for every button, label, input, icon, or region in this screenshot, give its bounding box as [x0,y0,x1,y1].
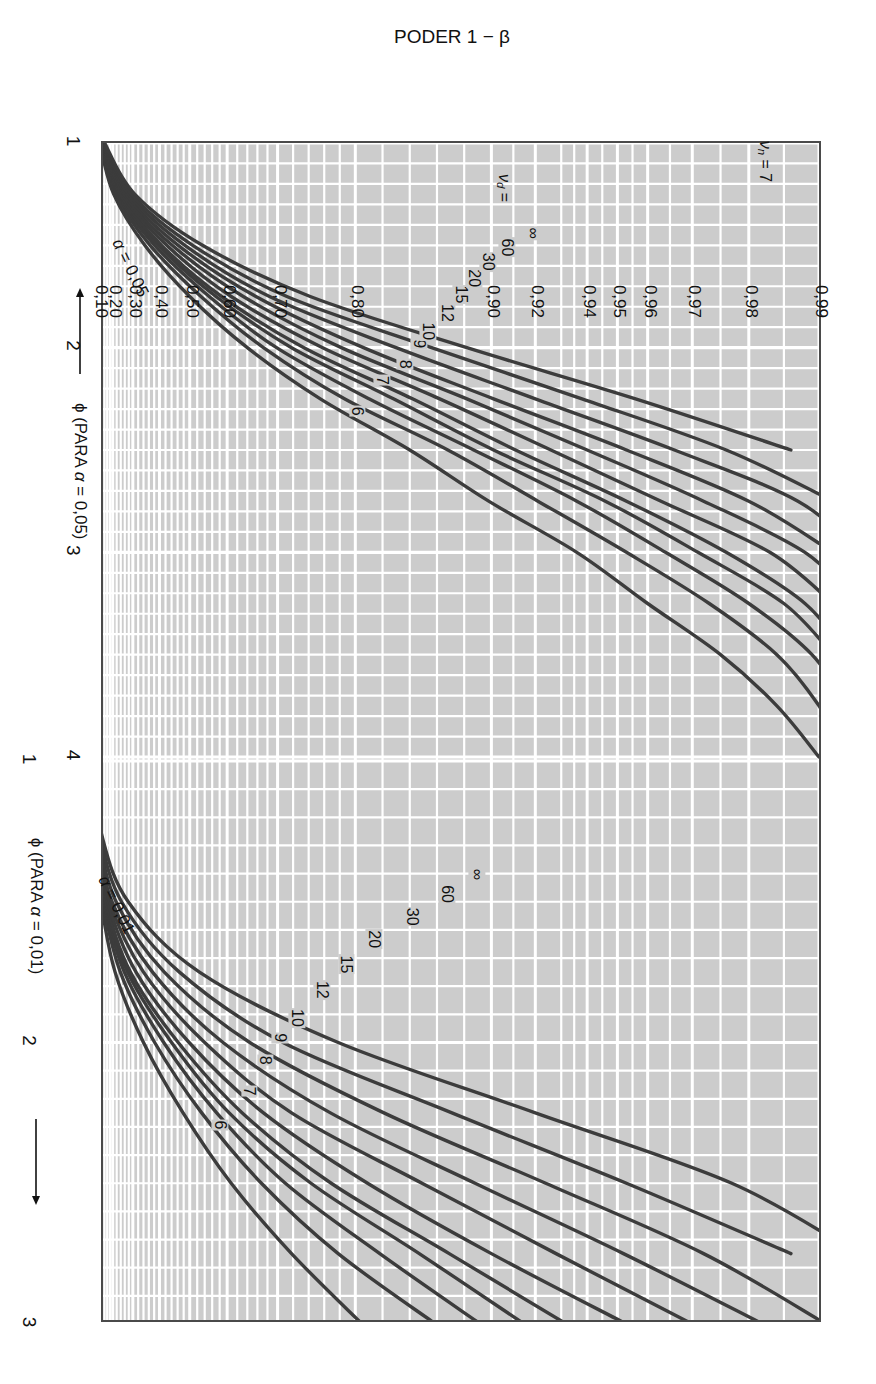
y-axis-tick: 0,10 [91,258,111,318]
curve-label-alpha001-20: 20 [365,929,382,949]
y-axis-tick: 0,95 [609,258,629,318]
x-axis-arrow-alpha-001 [29,1119,43,1205]
power-chart-figure: 0,990,980,970,960,950,940,920,900,800,70… [0,0,876,1384]
curve-label-alpha005-12: 12 [439,303,456,323]
curve-label-alpha005-30: 30 [480,252,497,272]
curve-label-alpha001-7: 7 [241,1086,258,1097]
nu-d-caption: νd = [495,174,514,202]
x-axis-tick: 1 [18,754,40,765]
x-axis-arrow-alpha-005 [73,288,87,374]
x-axis-tick: 2 [18,1035,40,1046]
y-axis-tick: 0,94 [579,258,599,318]
curve-label-alpha001-8: 8 [257,1055,274,1066]
rotated-figure-wrapper: 0,990,980,970,960,950,940,920,900,800,70… [0,0,876,1384]
y-axis-tick: 0,92 [527,258,547,318]
x-axis-tick: 3 [62,545,84,556]
curve-label-alpha005-8: 8 [397,359,414,370]
curve-label-alpha005-∞: ∞ [525,226,542,239]
y-axis-tick: 0,70 [270,258,290,318]
x-axis-tick: 4 [62,750,84,761]
curve-label-alpha005-10: 10 [420,321,437,341]
x-axis-tick: 3 [18,1317,40,1328]
curve-label-alpha005-60: 60 [498,238,515,258]
nu-n-label: νn = 7 [755,141,774,183]
curve-label-alpha001-30: 30 [403,907,420,927]
figure-root: 0,990,980,970,960,950,940,920,900,800,70… [0,0,876,1384]
y-axis-tick: 0,96 [640,258,660,318]
curve-label-alpha001-10: 10 [288,1008,305,1028]
y-axis-tick: 0,40 [151,258,171,318]
y-axis-tick: 0,50 [182,258,202,318]
curve-label-alpha001-6: 6 [211,1119,228,1130]
curve-label-alpha001-∞: ∞ [469,868,486,881]
curve-label-alpha001-9: 9 [271,1032,288,1043]
curve-label-alpha005-7: 7 [373,375,390,386]
curve-label-alpha001-60: 60 [439,884,456,904]
y-axis-title: PODER 1 − β [394,26,510,48]
x-axis-caption-alpha-001: ϕ (PARA α = 0,01) [26,838,46,975]
curve-label-alpha001-12: 12 [313,980,330,1000]
y-axis-tick: 0,80 [347,258,367,318]
x-axis-caption-alpha-005: ϕ (PARA α = 0,05) [70,403,90,540]
y-axis-tick: 0,97 [684,258,704,318]
y-axis-tick: 0,98 [741,258,761,318]
y-axis-tick: 0,60 [219,258,239,318]
x-axis-tick: 1 [62,136,84,147]
curve-label-alpha001-15: 15 [338,955,355,975]
plot-area [101,141,821,1322]
curve-label-alpha005-6: 6 [349,406,366,417]
y-axis-tick: 0,99 [811,258,831,318]
